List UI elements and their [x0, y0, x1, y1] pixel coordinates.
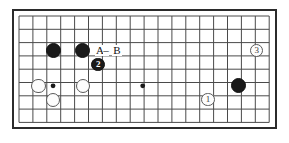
stone-black[interactable]: [231, 78, 246, 93]
stone-layer: A–B213: [0, 0, 289, 143]
stone-white-1[interactable]: 1: [201, 93, 214, 106]
stone-white[interactable]: [46, 93, 60, 107]
marker-b: B: [112, 45, 121, 56]
stone-number-label: 3: [254, 46, 259, 55]
stone-black[interactable]: [75, 43, 90, 58]
stone-black-2[interactable]: 2: [91, 58, 105, 72]
stone-number-label: 1: [206, 95, 211, 104]
stone-white-3[interactable]: 3: [250, 44, 263, 57]
stone-white[interactable]: [31, 79, 45, 93]
stone-number-label: 2: [96, 60, 101, 69]
marker-dash: –: [103, 45, 109, 56]
stone-black[interactable]: [46, 43, 61, 58]
go-board-diagram: A–B213: [0, 0, 289, 143]
stone-white[interactable]: [76, 79, 90, 93]
